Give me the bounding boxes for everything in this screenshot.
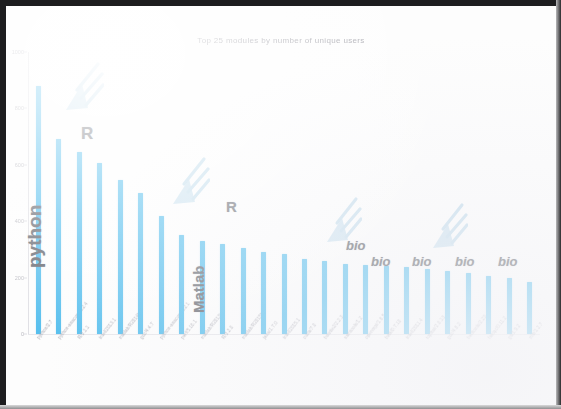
y-axis-tick-mark [24, 334, 27, 335]
bar[interactable] [527, 282, 532, 334]
y-axis-tick-label: 1000 [12, 49, 24, 55]
bar[interactable] [56, 139, 61, 334]
bar[interactable] [261, 252, 266, 334]
photo-frame-left [0, 0, 6, 409]
annotation-r-1: R [81, 124, 93, 144]
photo-frame-bottom [0, 405, 561, 409]
y-axis-tick-mark [24, 164, 27, 165]
annotation-bio-2: bio [371, 254, 391, 269]
annotation-python: python [24, 205, 46, 268]
bar[interactable] [220, 244, 225, 334]
annotation-bio-5: bio [498, 254, 518, 269]
bar[interactable] [363, 265, 368, 334]
bar[interactable] [343, 264, 348, 335]
bar-chart-figure: Top 25 modules by number of unique users… [6, 6, 556, 405]
y-axis-tick-mark [24, 108, 27, 109]
bar[interactable] [282, 254, 287, 334]
bar[interactable] [507, 278, 512, 334]
bar[interactable] [97, 163, 102, 334]
annotation-matlab: Matlab [190, 265, 207, 313]
plot-area: 10008006004002000python/2.7python-anacon… [28, 52, 540, 334]
bar[interactable] [486, 276, 491, 334]
bar[interactable] [179, 235, 184, 334]
y-axis-tick-label: 200 [15, 275, 24, 281]
bar[interactable] [302, 259, 307, 334]
bar[interactable] [404, 267, 409, 334]
photographed-chart-page: Top 25 modules by number of unique users… [0, 0, 561, 409]
annotation-r-2: R [226, 198, 237, 215]
y-axis-tick-mark [24, 52, 27, 53]
bar[interactable] [138, 193, 143, 334]
bar[interactable] [77, 152, 82, 334]
bar[interactable] [118, 180, 123, 334]
bar[interactable] [384, 266, 389, 334]
bar[interactable] [425, 269, 430, 334]
annotation-bio-4: bio [455, 254, 475, 269]
bar[interactable] [445, 271, 450, 334]
bar[interactable] [159, 216, 164, 334]
y-axis-tick-mark [24, 277, 27, 278]
y-axis-tick-label: 600 [15, 162, 24, 168]
annotation-bio-3: bio [412, 254, 432, 269]
y-axis-tick-label: 400 [15, 218, 24, 224]
bar[interactable] [322, 261, 327, 334]
photo-frame-right [556, 0, 561, 409]
photo-frame-top [0, 0, 561, 6]
annotation-bio-1: bio [346, 238, 366, 253]
y-axis-tick-label: 800 [15, 105, 24, 111]
bar[interactable] [466, 273, 471, 334]
bar[interactable] [241, 248, 246, 334]
chart-title: Top 25 modules by number of unique users [6, 36, 556, 45]
